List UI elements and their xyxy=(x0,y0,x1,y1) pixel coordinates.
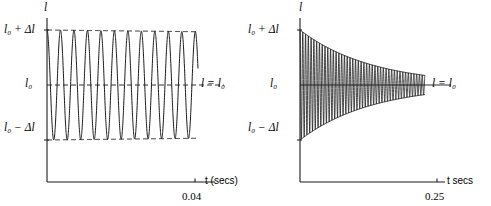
x-axis-title-right: t secs xyxy=(447,175,473,186)
x-axis-title-left: t (secs) xyxy=(205,175,238,186)
damped-oscillation-figure: l₀ + Δl l₀ l₀ − Δl l l = l₀ t (secs) 0.0… xyxy=(0,0,491,206)
equilibrium-line-label-left: l = l₀ xyxy=(201,78,225,90)
chart-panel-right: l₀ + Δl l₀ l₀ − Δl l l = l₀ t secs 0.25 xyxy=(245,0,491,206)
damped-oscillation-curve xyxy=(300,30,425,139)
equilibrium-line-label-right: l = l₀ xyxy=(432,78,456,90)
y-axis-label-middle-right: l₀ xyxy=(270,78,277,90)
y-axis-label-top-right: l₀ + Δl xyxy=(248,24,279,36)
x-axis-tick-label-right: 0.25 xyxy=(425,190,444,202)
x-axis-tick-label-left: 0.04 xyxy=(182,190,201,202)
y-axis-label-middle-left: l₀ xyxy=(25,78,32,90)
chart-panel-left: l₀ + Δl l₀ l₀ − Δl l l = l₀ t (secs) 0.0… xyxy=(0,0,246,206)
y-axis-label-bottom-right: l₀ − Δl xyxy=(248,122,279,134)
upper-envelope xyxy=(47,30,198,32)
y-axis-title-right: l xyxy=(299,2,302,14)
y-axis-label-top-left: l₀ + Δl xyxy=(4,24,35,36)
y-axis-label-bottom-left: l₀ − Δl xyxy=(4,122,35,134)
y-axis-title-left: l xyxy=(44,2,47,14)
